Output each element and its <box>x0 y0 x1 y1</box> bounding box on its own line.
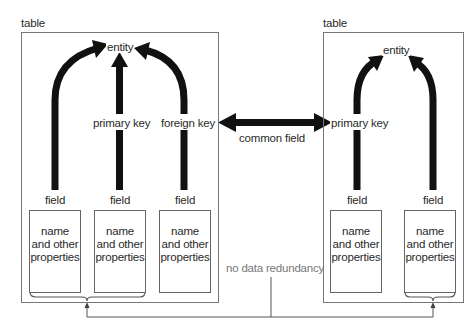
field-text-line: properties <box>331 251 381 264</box>
field-text-line: name <box>331 225 381 238</box>
field-text-line: and other <box>95 238 145 251</box>
right-entity-label: entity <box>382 44 410 56</box>
field-text-line: name <box>405 225 455 238</box>
field-text-line: properties <box>405 251 455 264</box>
left-field-box-1: name and other properties <box>29 210 81 293</box>
right-field-box-1: name and other properties <box>330 210 382 293</box>
right-field-label-1: field <box>347 194 367 206</box>
left-field-label-1: field <box>45 194 65 206</box>
field-text-line: properties <box>95 251 145 264</box>
right-field-box-2: name and other properties <box>404 210 456 293</box>
common-field-double-arrow <box>218 113 332 132</box>
field-text-line: and other <box>160 238 210 251</box>
field-text-line: and other <box>405 238 455 251</box>
right-field-label-2: field <box>423 194 443 206</box>
field-text-line: and other <box>30 238 80 251</box>
field-text-line: name <box>160 225 210 238</box>
left-field-box-3: name and other properties <box>159 210 211 293</box>
field-text-line: and other <box>331 238 381 251</box>
left-field-label-2: field <box>110 194 130 206</box>
left-foreign-key-label: foreign key <box>160 116 216 130</box>
left-entity-label: entity <box>106 41 134 53</box>
right-primary-key-label: primary key <box>330 116 389 130</box>
right-table-label: table <box>323 17 347 29</box>
field-text-line: name <box>95 225 145 238</box>
no-data-redundancy-label: no data redundancy <box>226 262 324 274</box>
field-text-line: properties <box>160 251 210 264</box>
field-text-line: name <box>30 225 80 238</box>
field-text-line: properties <box>30 251 80 264</box>
left-table-label: table <box>21 17 45 29</box>
common-field-label: common field <box>239 132 305 144</box>
left-field-label-3: field <box>175 194 195 206</box>
left-field-box-2: name and other properties <box>94 210 146 293</box>
left-primary-key-label: primary key <box>92 116 151 130</box>
